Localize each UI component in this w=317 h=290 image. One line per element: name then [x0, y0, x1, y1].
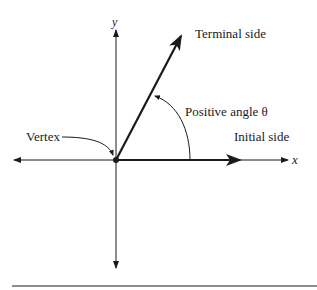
x-axis-label: x — [292, 153, 298, 166]
initial-side-label: Initial side — [234, 130, 289, 143]
positive-angle-label: Positive angle θ — [185, 105, 268, 118]
vertex-label: Vertex — [26, 130, 60, 143]
vertex-dot — [113, 157, 119, 163]
y-axis-label: y — [112, 16, 117, 28]
terminal-side-label: Terminal side — [195, 27, 266, 40]
vertex-leader — [62, 137, 113, 155]
angle-diagram — [0, 0, 317, 290]
terminal-side-ray — [116, 36, 181, 160]
